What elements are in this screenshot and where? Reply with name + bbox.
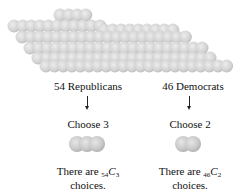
two-spheres-icon [174,135,204,153]
comb-n: 54 [101,171,108,179]
comb-k: 2 [218,171,222,179]
comb-symbol: C [108,165,115,177]
comb-symbol: C [210,165,217,177]
sphere-grid [8,9,234,73]
choose-3-label: Choose 3 [48,118,128,130]
comb-k: 3 [116,171,120,179]
democrat-choices-text: There are 46C2 choices. [140,165,239,191]
republicans-label: 54 Republicans [48,80,128,92]
senator-spheres-cluster [0,0,239,75]
arrow-down-icon [189,96,190,107]
choose-2-label: Choose 2 [150,118,230,130]
arrow-down-icon [87,96,88,107]
republican-choices-text: There are 54C3 choices. [38,165,138,191]
comb-n: 46 [203,171,210,179]
three-spheres-icon [68,135,108,153]
democrats-label: 46 Democrats [153,80,233,92]
